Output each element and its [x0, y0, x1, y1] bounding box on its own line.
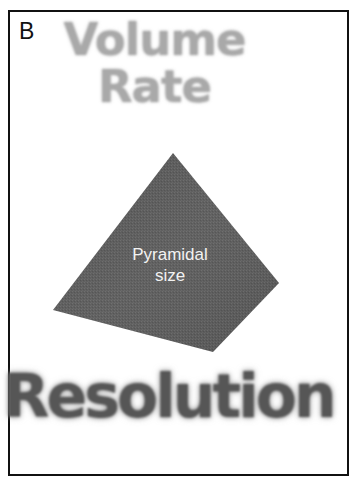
pyramid-label-line1: Pyramidal — [115, 244, 225, 265]
blurred-word-resolution: Resolution — [0, 366, 337, 426]
pyramid-label: Pyramidal size — [115, 244, 225, 286]
pyramid-label-line2: size — [115, 265, 225, 286]
